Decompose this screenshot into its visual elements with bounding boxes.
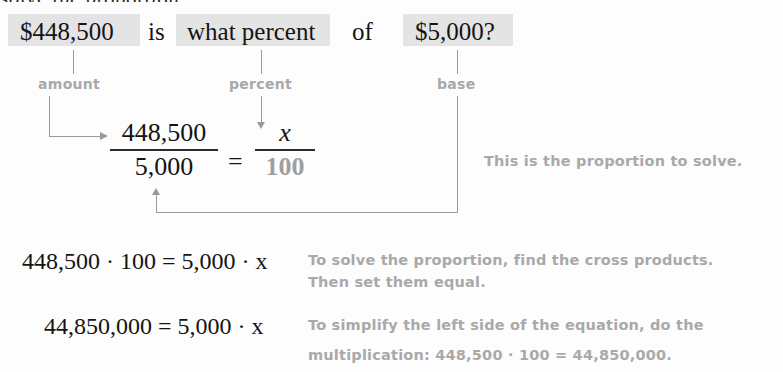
step-2-equation: 44,850,000 = 5,000 · x	[44, 313, 264, 340]
question-base: $5,000?	[415, 18, 495, 46]
step-1-note-line-1: To solve the proportion, find the cross …	[308, 250, 714, 271]
question-amount: $448,500	[20, 18, 114, 46]
cut-off-heading: solve the proportion.	[0, 0, 783, 2]
percent-connector-upper	[261, 50, 262, 74]
step-2-note-line-1: To simplify the left side of the equatio…	[308, 315, 704, 336]
left-numerator: 448,500	[110, 118, 218, 148]
amount-arrowhead	[100, 132, 108, 140]
step-1-note-line-2: Then set them equal.	[308, 272, 486, 293]
base-connector-lower	[457, 96, 458, 212]
label-base: base	[437, 76, 476, 92]
question-percent: what percent	[187, 18, 315, 46]
proportion-equals: =	[228, 147, 243, 177]
amount-elbow-horizontal	[49, 136, 101, 137]
amount-connector-lower	[49, 96, 50, 136]
question-of: of	[352, 18, 373, 46]
amount-connector-upper	[73, 50, 74, 74]
label-amount: amount	[38, 76, 100, 92]
right-fraction: x 100	[255, 118, 315, 182]
right-fraction-bar	[255, 149, 315, 151]
base-arrowhead	[152, 188, 160, 195]
base-elbow-horizontal	[156, 212, 458, 213]
label-percent: percent	[229, 76, 292, 92]
right-numerator: x	[255, 118, 315, 148]
step-2-note-line-2: multiplication: 448,500 · 100 = 44,850,0…	[308, 345, 672, 366]
right-denominator: 100	[255, 152, 315, 182]
left-denominator: 5,000	[110, 152, 218, 182]
base-elbow-vertical	[156, 194, 157, 213]
proportion-note: This is the proportion to solve.	[484, 151, 743, 172]
question-line: $448,500 is what percent of $5,000?	[0, 12, 783, 50]
left-fraction-bar	[110, 149, 218, 151]
question-is: is	[148, 18, 165, 46]
figure-page: solve the proportion. $448,500 is what p…	[0, 0, 783, 372]
step-1-equation: 448,500 · 100 = 5,000 · x	[22, 248, 268, 275]
base-connector-upper	[457, 50, 458, 74]
left-fraction: 448,500 5,000	[110, 118, 218, 182]
